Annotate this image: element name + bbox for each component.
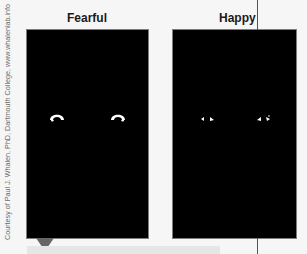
happy-eye-panel: [173, 30, 296, 238]
panel-label-fearful: Fearful: [67, 11, 107, 25]
panel-label-happy: Happy: [219, 11, 256, 25]
fearful-left-eye-icon: [49, 111, 65, 123]
fearful-right-eye-icon: [110, 111, 126, 123]
fearful-eye-panel: [27, 30, 148, 238]
caption-bar: [27, 246, 220, 254]
divider-line-top: [257, 0, 258, 30]
divider-line-bottom: [257, 238, 258, 254]
happy-right-eye-icon: [255, 115, 273, 123]
image-credit: Courtesy of Paul J. Whalen, PhD, Dartmou…: [3, 30, 12, 240]
happy-left-eye-icon: [199, 115, 217, 123]
